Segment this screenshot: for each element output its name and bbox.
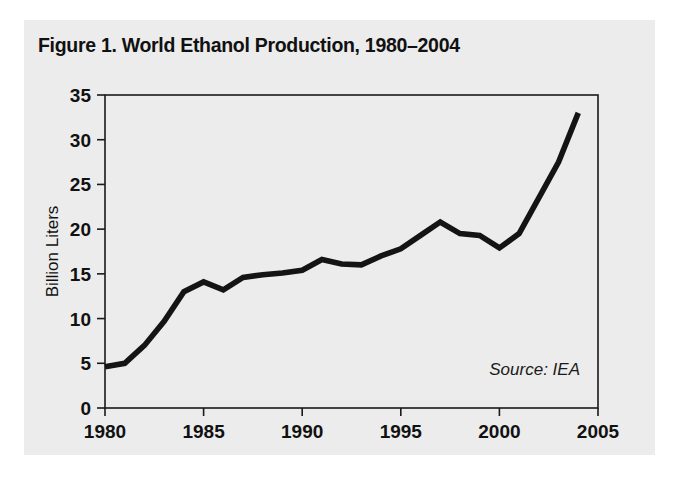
y-tick-label: 5 [80,353,91,374]
x-axis-ticks: 198019851990199520002005 [84,408,620,442]
x-tick-label: 2000 [478,421,520,442]
x-tick-label: 1980 [84,421,126,442]
y-axis-title: Billion Liters [43,206,62,298]
figure-panel: Figure 1. World Ethanol Production, 1980… [24,20,655,455]
y-tick-label: 15 [70,264,92,285]
x-tick-label: 2005 [577,421,620,442]
y-axis-ticks: 05101520253035 [70,85,105,419]
x-tick-label: 1995 [380,421,423,442]
y-tick-label: 10 [70,309,91,330]
y-tick-label: 35 [70,85,92,106]
y-tick-label: 20 [70,219,91,240]
line-chart: 05101520253035 198019851990199520002005 … [24,20,655,455]
x-tick-label: 1985 [182,421,225,442]
y-tick-label: 30 [70,130,91,151]
x-tick-label: 1990 [281,421,323,442]
y-tick-label: 25 [70,174,92,195]
source-annotation: Source: IEA [489,360,580,379]
data-line-world-ethanol-production [105,113,578,367]
y-tick-label: 0 [80,398,91,419]
chart-plot-area: 05101520253035 198019851990199520002005 … [24,20,655,455]
